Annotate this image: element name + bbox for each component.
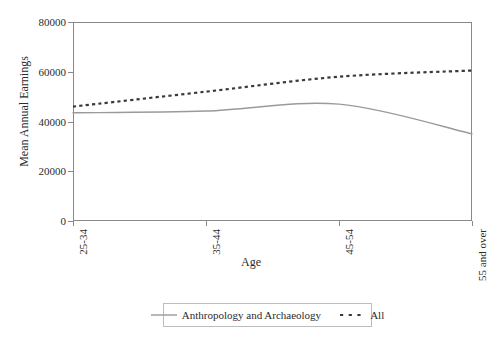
y-axis-tick-labels: 80000 60000 40000 20000 0 xyxy=(0,0,66,344)
x-tick-label-45-54: 45-54 xyxy=(344,229,355,255)
y-tick-mark-40000 xyxy=(68,122,73,123)
legend-entry-all: All xyxy=(339,310,384,321)
legend-label-all: All xyxy=(370,310,384,321)
y-tick-mark-20000 xyxy=(68,171,73,172)
x-tick-mark-45-54 xyxy=(339,221,340,226)
x-tick-mark-25-34 xyxy=(73,221,74,226)
y-tick-label-60000: 60000 xyxy=(39,67,67,78)
x-axis-title: Age xyxy=(0,255,502,270)
y-tick-label-20000: 20000 xyxy=(39,166,67,177)
y-tick-mark-60000 xyxy=(68,72,73,73)
plot-area xyxy=(73,22,472,221)
y-tick-mark-80000 xyxy=(68,22,73,23)
x-tick-label-25-34: 25-34 xyxy=(78,229,89,255)
y-tick-label-80000: 80000 xyxy=(39,17,67,28)
x-tick-mark-35-44 xyxy=(206,221,207,226)
y-tick-label-0: 0 xyxy=(61,216,67,227)
legend-swatch-dashed-icon xyxy=(339,311,365,319)
x-tick-mark-55-and-over xyxy=(472,221,473,226)
legend: Anthropology and Archaeology All xyxy=(163,303,372,327)
y-axis-title: Mean Annual Earnings xyxy=(17,32,32,192)
legend-entry-anthropology-and-archaeology: Anthropology and Archaeology xyxy=(151,310,321,321)
chart-figure: 80000 60000 40000 20000 0 Mean Annual Ea… xyxy=(0,0,502,344)
y-tick-label-40000: 40000 xyxy=(39,117,67,128)
legend-label-anthropology-and-archaeology: Anthropology and Archaeology xyxy=(182,310,321,321)
legend-swatch-solid-icon xyxy=(151,311,177,319)
x-tick-label-35-44: 35-44 xyxy=(211,229,222,255)
